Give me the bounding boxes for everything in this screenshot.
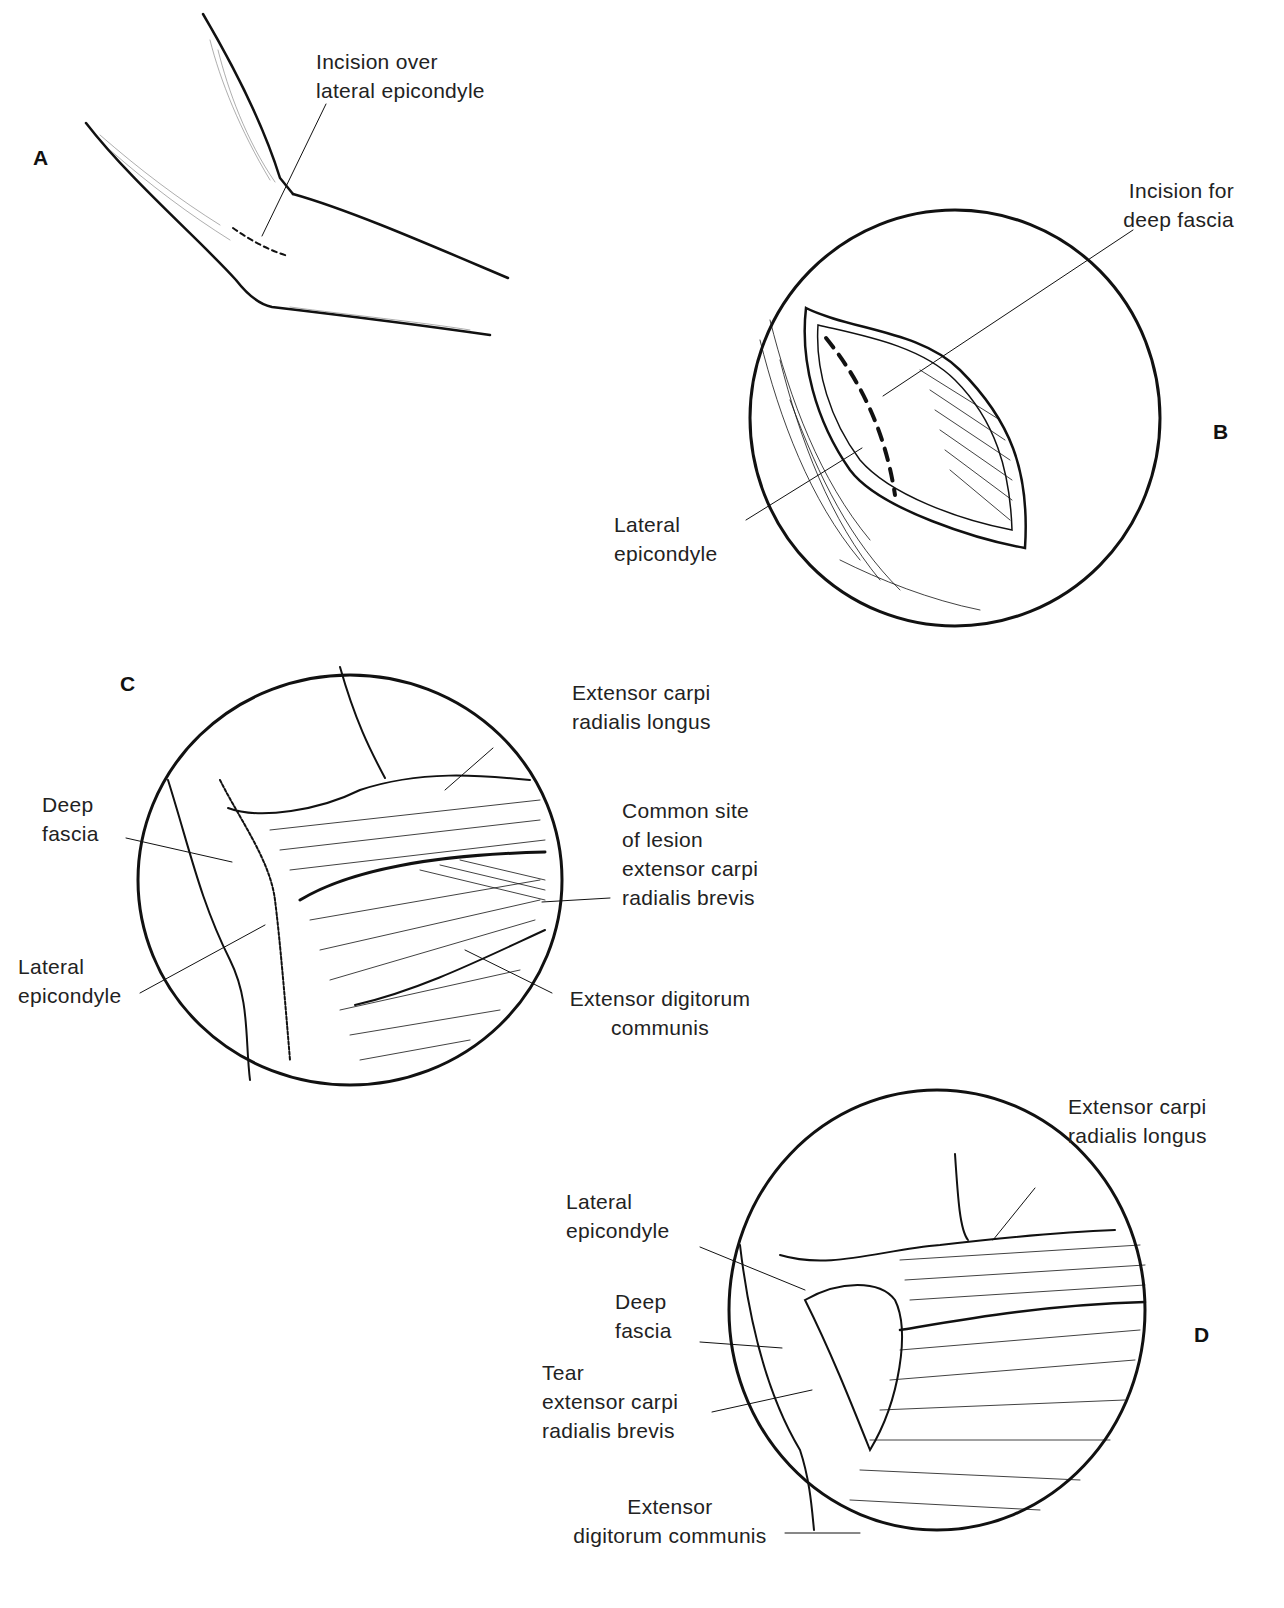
label-ecrl-c: Extensor carpi radialis longus [572, 678, 711, 736]
label-lateral-epicondyle-d: Lateral epicondyle [566, 1187, 669, 1245]
label-tear-ecrb: Tear extensor carpi radialis brevis [542, 1358, 678, 1445]
label-edc-c: Extensor digitorum communis [555, 984, 765, 1042]
panel-d-muscle-drawing [700, 1090, 1145, 1533]
panel-c-muscle-drawing [126, 667, 610, 1085]
label-edc-d: Extensor digitorum communis [555, 1492, 785, 1550]
label-incision-for-deep-fascia: Incision for deep fascia [1100, 176, 1234, 234]
label-deep-fascia-c: Deep fascia [42, 790, 99, 848]
label-deep-fascia-d: Deep fascia [615, 1287, 672, 1345]
label-ecrl-d: Extensor carpi radialis longus [1068, 1092, 1207, 1150]
panel-b-incision-drawing [746, 210, 1160, 626]
label-lateral-epicondyle-c: Lateral epicondyle [18, 952, 121, 1010]
panel-letter-b: B [1213, 420, 1228, 444]
label-incision-over-lateral-epicondyle: Incision over lateral epicondyle [316, 47, 485, 105]
label-common-site-lesion: Common site of lesion extensor carpi rad… [622, 796, 758, 912]
panel-letter-d: D [1194, 1323, 1209, 1347]
panel-letter-c: C [120, 672, 135, 696]
label-lateral-epicondyle-b: Lateral epicondyle [614, 510, 717, 568]
panel-letter-a: A [33, 146, 48, 170]
